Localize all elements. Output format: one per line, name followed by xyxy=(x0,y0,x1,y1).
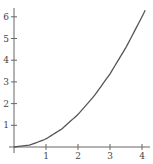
y-tick-label: 1 xyxy=(3,120,9,130)
y-tick-label: 2 xyxy=(3,99,9,109)
x-tick-label: 1 xyxy=(43,151,49,161)
y-tick-label: 3 xyxy=(3,77,9,87)
y-ticks: 123456 xyxy=(3,12,17,131)
x-tick-label: 4 xyxy=(139,151,145,161)
y-tick-label: 6 xyxy=(3,12,9,22)
x-tick-label: 2 xyxy=(75,151,81,161)
y-tick-label: 5 xyxy=(3,34,9,44)
chart: 1234 123456 xyxy=(0,0,153,164)
x-tick-label: 3 xyxy=(107,151,113,161)
data-curve xyxy=(14,10,145,147)
y-tick-label: 4 xyxy=(3,55,9,65)
